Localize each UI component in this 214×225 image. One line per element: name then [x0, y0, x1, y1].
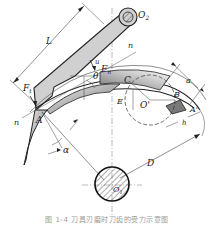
- label-C: C: [124, 75, 131, 85]
- label-B: B: [173, 90, 180, 99]
- label-n-left: n: [14, 118, 19, 127]
- label-D: D: [146, 158, 154, 168]
- label-A: A: [35, 115, 43, 125]
- label-a: a: [186, 76, 191, 85]
- line-A-O1: [42, 112, 104, 180]
- figure-caption: 图 1-4 刀具刃磨时刀齿的受力示意图: [0, 214, 214, 224]
- dimension-D: [120, 110, 205, 178]
- label-n-top: n: [128, 41, 133, 50]
- label-theta: θ: [93, 71, 99, 81]
- label-O2: O2: [138, 10, 149, 21]
- label-A-prime: A': [189, 105, 198, 114]
- tooth-right: [166, 100, 186, 114]
- hub-O1: [95, 167, 129, 201]
- label-E: E: [116, 97, 123, 106]
- label-Ft: Ft: [22, 83, 32, 94]
- mechanical-diagram: O2 L n Ft u Fn θ C E O' B A' a h n A α D…: [0, 0, 214, 225]
- label-h: h: [182, 119, 187, 127]
- label-Fn: Fn: [100, 64, 111, 75]
- label-L: L: [45, 36, 52, 46]
- label-alpha: α: [63, 145, 69, 155]
- label-O-prime: O': [140, 100, 150, 110]
- label-u: u: [95, 58, 100, 66]
